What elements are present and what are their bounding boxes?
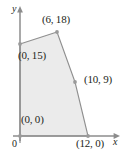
y-axis-label: y [12, 4, 16, 14]
vertex-label-origin: (0, 0) [21, 114, 44, 125]
vertex-label-bottom-right: (12, 0) [76, 138, 104, 149]
coordinate-diagram: (6, 18) (0, 15) (10, 9) (0, 0) (12, 0) y… [0, 0, 124, 156]
vertex-label-right: (10, 9) [84, 74, 112, 85]
vertex-marker-10-9 [73, 80, 77, 84]
vertex-marker-0-15 [18, 42, 22, 46]
vertex-marker-0-0 [18, 134, 22, 138]
vertex-marker-6-18 [55, 30, 59, 34]
y-axis-arrow-icon [17, 6, 23, 12]
origin-label: 0 [12, 139, 17, 149]
vertex-label-left: (0, 15) [18, 50, 46, 61]
vertex-label-top: (6, 18) [42, 14, 70, 25]
x-axis-label: x [113, 137, 117, 147]
